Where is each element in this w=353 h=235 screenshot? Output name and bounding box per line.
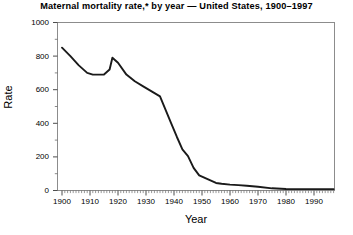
data-line-maternal-mortality: [62, 48, 334, 189]
y-tick-label-1000: 1000: [13, 18, 49, 27]
y-axis-label: Rate: [2, 75, 14, 119]
y-tick-label-200: 200: [13, 152, 49, 161]
x-axis-label: Year: [57, 213, 335, 225]
chart-figure: Maternal mortality rate,* by year — Unit…: [0, 0, 353, 235]
plot-frame: [58, 23, 335, 191]
y-tick-label-400: 400: [13, 119, 49, 128]
y-tick-label-0: 0: [13, 186, 49, 195]
y-tick-label-800: 800: [13, 52, 49, 61]
x-tick-label-1990: 1990: [294, 197, 334, 206]
y-tick-label-600: 600: [13, 85, 49, 94]
